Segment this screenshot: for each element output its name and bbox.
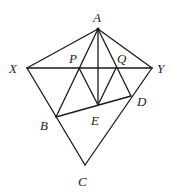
label-point-b: B — [40, 118, 48, 133]
label-point-p: P — [68, 51, 77, 66]
segment-ab — [56, 29, 98, 117]
segment-qe — [98, 68, 116, 105]
vertex-a-dot — [96, 27, 99, 30]
geometry-diagram: AXYPQEBDC — [0, 0, 174, 195]
label-point-y: Y — [157, 61, 166, 76]
label-point-e: E — [90, 113, 99, 128]
segment-pe — [79, 68, 98, 105]
label-point-a: A — [92, 10, 101, 25]
segment-ax — [27, 29, 98, 68]
label-point-c: C — [78, 174, 87, 189]
segments-layer — [27, 29, 152, 165]
label-point-q: Q — [117, 51, 127, 66]
label-point-d: D — [136, 94, 147, 109]
label-point-x: X — [8, 61, 18, 76]
